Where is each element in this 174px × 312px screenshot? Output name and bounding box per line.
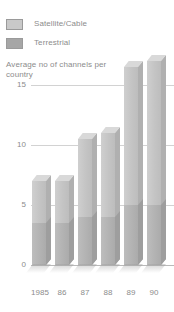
bar-88-side-face [115, 127, 120, 265]
bar-90-front-face [147, 61, 161, 265]
bar-89-shadow [118, 264, 143, 273]
bar-86-shadow [49, 264, 74, 273]
bar-90[interactable] [147, 61, 161, 265]
bar-88[interactable] [101, 133, 115, 265]
bar-87-side-terrestrial [92, 211, 97, 265]
bar-90-side-face [161, 55, 166, 265]
bar-group [0, 0, 174, 312]
x-tick-label-90: 90 [143, 288, 165, 298]
bar-87-front-face [78, 139, 92, 265]
bar-86-side-face [69, 175, 74, 265]
bar-88-terrestrial-segment [101, 217, 115, 265]
bar-87-terrestrial-segment [78, 217, 92, 265]
bar-87[interactable] [78, 139, 92, 265]
chart-root: Satellite/Cable Terrestrial Average no o… [0, 0, 174, 312]
x-axis-labels: 1985 86 87 88 89 90 [0, 288, 174, 300]
bar-88-front-face [101, 133, 115, 265]
bar-89-front-face [124, 67, 138, 265]
bar-90-side-terrestrial [161, 199, 166, 265]
bar-86-side-terrestrial [69, 217, 74, 265]
bar-86-terrestrial-segment [55, 223, 69, 265]
bar-1985-side-terrestrial [46, 217, 51, 265]
bar-1985[interactable] [32, 181, 46, 265]
bar-90-terrestrial-segment [147, 205, 161, 265]
bar-1985-shadow [26, 264, 51, 273]
bar-89[interactable] [124, 67, 138, 265]
bar-87-shadow [72, 264, 97, 273]
bar-88-shadow [95, 264, 120, 273]
bar-89-side-terrestrial [138, 199, 143, 265]
bar-86[interactable] [55, 181, 69, 265]
bar-1985-front-face [32, 181, 46, 265]
bar-89-side-face [138, 61, 143, 265]
x-tick-label-88: 88 [97, 288, 119, 298]
bar-88-side-terrestrial [115, 211, 120, 265]
bar-86-front-face [55, 181, 69, 265]
bar-1985-side-face [46, 175, 51, 265]
x-tick-label-1985: 1985 [26, 288, 54, 298]
bar-1985-terrestrial-segment [32, 223, 46, 265]
bar-87-side-face [92, 133, 97, 265]
bar-90-shadow [141, 264, 166, 273]
x-tick-label-86: 86 [51, 288, 73, 298]
bar-89-terrestrial-segment [124, 205, 138, 265]
x-tick-label-87: 87 [74, 288, 96, 298]
x-tick-label-89: 89 [120, 288, 142, 298]
